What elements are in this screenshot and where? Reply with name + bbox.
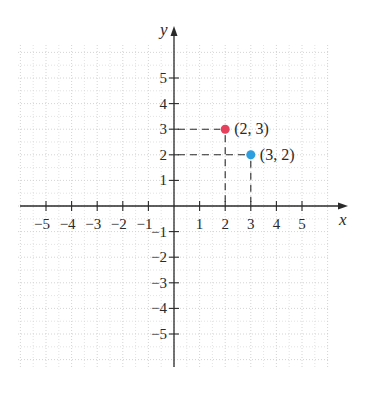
dashed-guide-lines — [178, 129, 251, 202]
x-tick-label: −3 — [85, 216, 101, 232]
x-tick-label: 5 — [298, 216, 306, 232]
point-label: (2, 3) — [234, 120, 269, 138]
y-axis-label: y — [158, 20, 168, 39]
x-tick-label: 1 — [196, 216, 204, 232]
x-tick-label: 3 — [247, 216, 255, 232]
y-tick-label: 1 — [160, 172, 168, 188]
tick-labels: xy−5−4−3−2−112345−5−4−3−2−112345 — [34, 20, 347, 342]
y-tick-label: −1 — [151, 224, 167, 240]
x-tick-label: 4 — [273, 216, 281, 232]
x-tick-label: −4 — [60, 216, 76, 232]
y-tick-label: −5 — [151, 326, 167, 342]
y-tick-label: −4 — [151, 300, 167, 316]
y-tick-label: 3 — [160, 121, 168, 137]
x-tick-label: −5 — [34, 216, 50, 232]
y-tick-label: 4 — [160, 96, 168, 112]
point-label: (3, 2) — [260, 146, 295, 164]
x-tick-label: −1 — [136, 216, 152, 232]
coordinate-plane: xy−5−4−3−2−112345−5−4−3−2−112345 (2, 3)(… — [0, 0, 369, 395]
y-tick-label: 5 — [160, 70, 168, 86]
y-tick-label: −3 — [151, 275, 167, 291]
y-tick-label: −2 — [151, 249, 167, 265]
axes — [20, 26, 348, 367]
y-tick-label: 2 — [160, 147, 168, 163]
x-tick-label: −2 — [111, 216, 127, 232]
data-point-marker — [246, 150, 255, 159]
y-axis-arrow-icon — [171, 26, 178, 36]
x-axis-label: x — [338, 210, 347, 229]
x-tick-label: 2 — [221, 216, 229, 232]
data-point-marker — [221, 125, 230, 134]
x-axis-arrow-icon — [338, 203, 348, 210]
